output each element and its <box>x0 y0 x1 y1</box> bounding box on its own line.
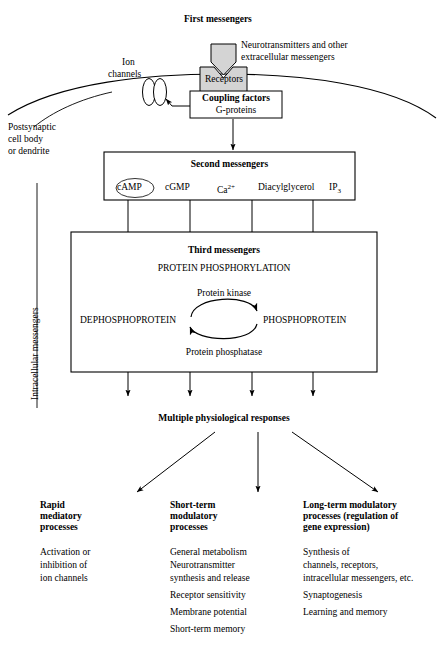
response-column-3-item-1: Synthesis of <box>303 546 350 559</box>
multiple-physiological-responses-title: Multiple physiological responses <box>71 413 377 425</box>
second-messenger-diacylglycerol: Diacylglycerol <box>258 182 314 194</box>
response-column-2-item-6: Short-term memory <box>170 623 245 636</box>
response-column-3-heading-line2: processes (regulation of <box>303 511 398 523</box>
second-messenger-cgmp: cGMP <box>165 182 190 194</box>
dephosphoprotein-label: DEPHOSPHOPROTEIN <box>80 315 176 327</box>
second-messenger-camp: cAMP <box>117 182 142 194</box>
ip3-subscript: 3 <box>337 187 341 195</box>
intracellular-messengers-label: Intracellular messengers <box>30 307 40 400</box>
ion-channels-label-line2: channels <box>108 69 141 81</box>
third-messengers-title: Third messengers <box>71 245 377 257</box>
response-column-1-heading-line3: processes <box>40 522 78 534</box>
response-column-2-heading-line1: Short-term <box>170 500 215 512</box>
response-column-3-heading-line1: Long-term modulatory <box>303 500 397 512</box>
response-branch-arrow-left <box>137 432 215 492</box>
response-column-3-item-2: channels, receptors, <box>303 559 378 572</box>
second-messenger-ip3: IP3 <box>329 182 341 197</box>
response-column-2-item-2: Neurotransmitter <box>170 559 235 572</box>
response-column-2-item-3: synthesis and release <box>170 572 250 585</box>
response-column-3-item-5: Learning and memory <box>303 606 387 619</box>
response-column-3-heading-line3: gene expression) <box>303 522 370 534</box>
protein-kinase-label: Protein kinase <box>71 288 377 300</box>
protein-kinase-arrow <box>191 299 257 317</box>
response-column-2-item-4: Receptor sensitivity <box>170 589 246 602</box>
protein-phosphatase-label: Protein phosphatase <box>71 347 377 359</box>
second-messengers-title: Second messengers <box>104 159 355 171</box>
response-column-2-item-5: Membrane potential <box>170 606 247 619</box>
phosphoprotein-label: PHOSPHOPROTEIN <box>263 315 346 327</box>
ligand-shape <box>211 44 236 75</box>
first-messengers-title: First messengers <box>184 14 252 26</box>
response-column-3-item-4: Synaptogenesis <box>303 589 362 602</box>
second-messenger-calcium: Ca2+ <box>217 182 235 197</box>
coupling-factors-title: Coupling factors <box>190 93 282 105</box>
response-column-2-heading-line3: processes <box>170 522 208 534</box>
response-column-3-item-3: intracellular messengers, etc. <box>303 572 413 585</box>
response-column-1-heading-line2: mediatory <box>40 511 82 523</box>
postsynaptic-label-line3: or dendrite <box>8 146 49 158</box>
ion-channel-oval-left <box>143 79 156 106</box>
protein-phosphorylation-subtitle: PROTEIN PHOSPHORYLATION <box>71 263 377 275</box>
response-column-1-item-1: Activation or <box>40 546 90 559</box>
coupling-factors-subtitle: G-proteins <box>190 105 282 117</box>
coupling-to-ion-channel-arrow <box>166 99 190 106</box>
response-column-1-item-2: inhibition of <box>40 559 87 572</box>
response-branch-arrow-right <box>292 432 378 492</box>
response-column-1-heading-line1: Rapid <box>40 500 65 512</box>
protein-phosphatase-arrow <box>190 324 257 339</box>
postsynaptic-label-line2: cell body <box>8 134 43 146</box>
response-column-1-item-3: ion channels <box>40 572 88 585</box>
ligand-caption-line1: Neurotransmitters and other <box>241 40 348 52</box>
ion-channels-label-line1: Ion <box>122 57 135 69</box>
ion-channel-oval-right <box>154 79 167 106</box>
response-column-2-heading-line2: modulatory <box>170 511 218 523</box>
calcium-superscript: 2+ <box>228 183 235 191</box>
ligand-caption-line2: extracellular messengers <box>241 52 335 64</box>
receptors-label: Receptors <box>202 74 246 86</box>
response-column-2-item-1: General metabolism <box>170 546 247 559</box>
signaling-pathway-diagram: First messengers Neurotransmitters and o… <box>0 0 444 646</box>
postsynaptic-label-line1: Postsynaptic <box>8 122 56 134</box>
